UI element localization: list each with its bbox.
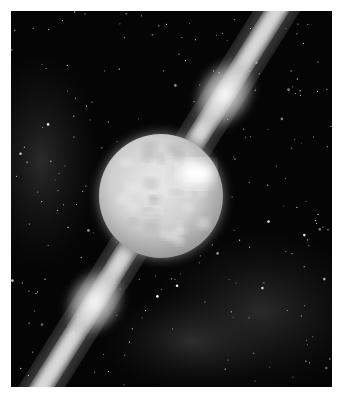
star-point bbox=[28, 290, 29, 291]
star-point bbox=[297, 24, 298, 25]
star-point bbox=[73, 136, 74, 137]
star-point bbox=[73, 116, 74, 117]
star-point bbox=[318, 214, 319, 215]
star-point bbox=[174, 279, 175, 280]
star-point bbox=[325, 367, 328, 370]
star-point bbox=[48, 29, 49, 30]
star-point bbox=[81, 257, 82, 258]
space-illustration bbox=[11, 11, 332, 387]
star-point bbox=[108, 121, 109, 122]
surface-spot bbox=[127, 218, 139, 225]
star-point bbox=[303, 234, 306, 237]
star-point bbox=[307, 24, 308, 25]
surface-spot bbox=[166, 160, 179, 166]
star-point bbox=[235, 282, 236, 283]
star-point bbox=[41, 201, 42, 202]
star-point bbox=[24, 147, 25, 148]
star-point bbox=[33, 28, 34, 29]
star-point bbox=[132, 328, 133, 329]
surface-spot bbox=[168, 189, 181, 195]
star-point bbox=[326, 89, 327, 90]
star-point bbox=[76, 204, 77, 205]
star-point bbox=[124, 37, 125, 38]
star-point bbox=[303, 43, 304, 44]
star-point bbox=[166, 24, 167, 25]
star-point bbox=[315, 220, 316, 221]
jet-base-glare bbox=[178, 160, 214, 188]
star-point bbox=[126, 13, 127, 14]
star-point bbox=[322, 226, 323, 227]
star-point bbox=[249, 317, 250, 318]
star-point bbox=[119, 68, 120, 69]
surface-spot bbox=[197, 218, 210, 230]
star-point bbox=[261, 287, 264, 290]
star-point bbox=[19, 152, 22, 155]
star-point bbox=[181, 37, 182, 38]
star-point bbox=[82, 191, 83, 192]
surface-spot bbox=[142, 141, 156, 153]
star-point bbox=[180, 273, 181, 274]
surface-spot bbox=[119, 158, 133, 167]
star-point bbox=[91, 102, 92, 103]
star-point bbox=[301, 142, 302, 143]
star-point bbox=[87, 229, 90, 232]
star-point bbox=[63, 204, 64, 205]
star-point bbox=[313, 136, 314, 137]
star-point bbox=[176, 285, 179, 288]
star-point bbox=[124, 355, 125, 356]
star-point bbox=[16, 176, 17, 177]
surface-spot bbox=[149, 197, 155, 204]
surface-spot bbox=[160, 166, 170, 173]
star-point bbox=[58, 173, 59, 174]
star-point bbox=[317, 91, 318, 92]
star-point bbox=[42, 127, 43, 128]
star-point bbox=[155, 275, 156, 276]
star-point bbox=[129, 342, 130, 343]
star-point bbox=[232, 196, 233, 197]
star-point bbox=[141, 15, 142, 16]
star-point bbox=[29, 224, 30, 225]
star-point bbox=[249, 182, 250, 183]
star-point bbox=[327, 146, 328, 147]
star-point bbox=[145, 310, 146, 311]
star-point bbox=[138, 118, 139, 119]
star-point bbox=[58, 190, 59, 191]
surface-spot bbox=[167, 143, 185, 154]
star-point bbox=[64, 165, 65, 166]
star-point bbox=[259, 73, 260, 74]
star-point bbox=[231, 311, 232, 312]
star-point bbox=[227, 40, 228, 41]
star-point bbox=[161, 289, 162, 290]
star-point bbox=[307, 344, 308, 345]
star-point bbox=[85, 185, 86, 186]
surface-spot bbox=[198, 188, 207, 197]
star-point bbox=[44, 279, 45, 280]
star-point bbox=[103, 354, 104, 355]
star-point bbox=[93, 232, 94, 233]
surface-spot bbox=[143, 220, 160, 232]
star-point bbox=[90, 119, 91, 120]
star-point bbox=[216, 252, 219, 255]
star-point bbox=[32, 352, 33, 353]
star-point bbox=[29, 323, 30, 324]
star-point bbox=[267, 129, 268, 130]
star-point bbox=[195, 39, 196, 40]
star-point bbox=[267, 220, 270, 223]
star-point bbox=[329, 358, 330, 359]
star-point bbox=[139, 279, 140, 280]
star-point bbox=[245, 137, 246, 138]
star-point bbox=[308, 245, 309, 246]
star-point bbox=[158, 25, 159, 26]
star-point bbox=[323, 278, 326, 281]
star-point bbox=[189, 23, 190, 24]
star-point bbox=[41, 323, 44, 326]
star-point bbox=[296, 33, 297, 34]
star-point bbox=[249, 247, 250, 248]
star-point bbox=[312, 336, 313, 337]
surface-spot bbox=[184, 189, 191, 197]
star-point bbox=[57, 210, 58, 211]
star-point bbox=[327, 229, 328, 230]
star-point bbox=[301, 315, 302, 316]
star-point bbox=[62, 20, 63, 21]
star-point bbox=[11, 279, 14, 282]
